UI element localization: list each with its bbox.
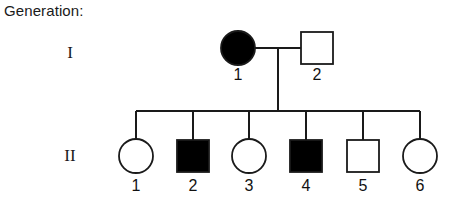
gen-ii-individual-3-id-label: 3 bbox=[235, 177, 263, 195]
gen-ii-individual-6-female-unaffected bbox=[403, 139, 437, 173]
gen-ii-individual-4-male-affected bbox=[290, 140, 322, 172]
pedigree-chart: Generation: I II 12123456 bbox=[0, 0, 460, 203]
connector-lines bbox=[136, 48, 420, 140]
gen-ii-individual-5-male-unaffected bbox=[347, 140, 379, 172]
gen-i-individual-2-id-label: 2 bbox=[303, 66, 331, 84]
gen-ii-individual-6-id-label: 6 bbox=[406, 177, 434, 195]
pedigree-graphics bbox=[0, 0, 460, 203]
gen-ii-individual-2-male-affected bbox=[177, 140, 209, 172]
gen-i-individual-1-id-label: 1 bbox=[224, 66, 252, 84]
gen-ii-individual-4-id-label: 4 bbox=[292, 177, 320, 195]
gen-ii-individual-3-female-unaffected bbox=[232, 139, 266, 173]
gen-ii-individual-2-id-label: 2 bbox=[179, 177, 207, 195]
gen-i-individual-1-female-affected bbox=[221, 31, 255, 65]
gen-ii-individual-1-id-label: 1 bbox=[122, 177, 150, 195]
gen-ii-individual-5-id-label: 5 bbox=[349, 177, 377, 195]
gen-ii-individual-1-female-unaffected bbox=[119, 139, 153, 173]
gen-i-individual-2-male-unaffected bbox=[301, 32, 333, 64]
